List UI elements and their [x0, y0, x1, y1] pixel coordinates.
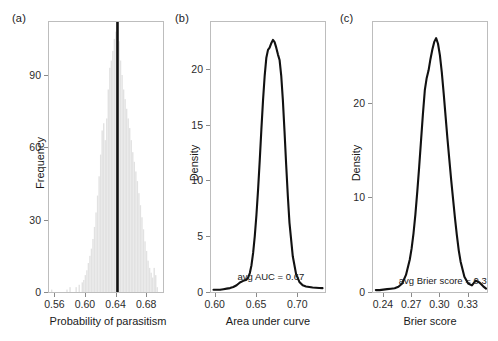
- y-tick-label: 20: [178, 63, 203, 75]
- histogram-bar: [105, 140, 106, 292]
- y-tick-mark: [206, 180, 210, 181]
- panel-b-density-curve: [211, 22, 325, 292]
- histogram-bar: [144, 241, 145, 292]
- panel-b-plot-area: avg AUC = 0.67: [210, 21, 326, 293]
- x-tick-label: 0.56: [44, 298, 64, 310]
- panel-a-plot-area: [48, 21, 164, 293]
- histogram-bar: [140, 205, 141, 292]
- density-line: [213, 40, 322, 290]
- y-tick-mark: [368, 292, 372, 293]
- histogram-bar: [135, 171, 136, 292]
- x-tick-mark: [383, 293, 384, 297]
- histogram-bar: [137, 181, 138, 292]
- panel-c-label: (c): [340, 12, 353, 24]
- y-tick-label: 30: [16, 214, 41, 226]
- x-tick-label: 0.60: [204, 298, 224, 310]
- histogram-bar: [86, 270, 87, 292]
- x-tick-mark: [146, 293, 147, 297]
- histogram-bar: [126, 109, 127, 292]
- histogram-bar: [85, 275, 86, 292]
- histogram-bar: [124, 99, 125, 292]
- panel-a: (a) 03060900.560.600.640.68 Frequency Pr…: [0, 0, 170, 341]
- histogram-bar: [141, 217, 142, 292]
- panel-c-y-axis-label: Density: [350, 145, 362, 182]
- x-tick-mark: [256, 293, 257, 297]
- panel-a-label: (a): [12, 12, 26, 24]
- histogram-bar: [146, 251, 147, 292]
- histogram-bar: [127, 118, 128, 292]
- histogram-bar: [100, 155, 101, 292]
- histogram-bar: [91, 249, 92, 292]
- histogram-bar: [106, 118, 107, 292]
- x-tick-mark: [439, 293, 440, 297]
- histogram-bar: [152, 278, 153, 292]
- x-tick-mark: [116, 293, 117, 297]
- histogram-bar: [103, 123, 104, 292]
- panel-a-y-axis-label: Frequency: [34, 137, 46, 189]
- y-tick-label: 90: [16, 69, 41, 81]
- x-tick-label: 0.64: [105, 298, 125, 310]
- x-tick-label: 0.33: [457, 298, 477, 310]
- histogram-bar: [132, 152, 133, 292]
- y-tick-label: 15: [178, 119, 203, 131]
- x-tick-mark: [411, 293, 412, 297]
- histogram-bar: [89, 256, 90, 292]
- histogram-bar: [123, 90, 124, 293]
- y-tick-mark: [44, 75, 48, 76]
- x-tick-mark: [468, 293, 469, 297]
- histogram-bar: [97, 196, 98, 292]
- histogram-bar: [109, 68, 110, 292]
- x-tick-label: 0.68: [136, 298, 156, 310]
- panel-b-y-axis-label: Density: [188, 145, 200, 182]
- panel-c-annotation: avg Brier score = 0.3: [399, 275, 487, 286]
- panel-a-histogram: [49, 22, 163, 292]
- panel-c-plot-area: avg Brier score = 0.3: [372, 21, 488, 293]
- x-tick-label: 0.24: [373, 298, 393, 310]
- x-tick-label: 0.27: [401, 298, 421, 310]
- histogram-bar: [82, 282, 83, 292]
- panel-b-x-axis-label: Area under curve: [226, 315, 310, 327]
- histogram-bar: [154, 268, 155, 292]
- histogram-bar: [108, 90, 109, 293]
- y-tick-label: 10: [340, 191, 365, 203]
- y-tick-mark: [44, 292, 48, 293]
- y-tick-label: 0: [16, 286, 41, 298]
- histogram-bar: [79, 285, 80, 292]
- histogram-bar: [147, 261, 148, 292]
- histogram-bar: [66, 290, 67, 292]
- histogram-bar: [112, 51, 113, 292]
- histogram-bar: [134, 162, 135, 292]
- y-tick-label: 0: [178, 286, 203, 298]
- figure-container: (a) 03060900.560.600.640.68 Frequency Pr…: [0, 0, 498, 341]
- y-tick-mark: [206, 125, 210, 126]
- x-tick-mark: [85, 293, 86, 297]
- histogram-bar: [114, 39, 115, 292]
- histogram-bar: [75, 287, 76, 292]
- histogram-bar: [101, 130, 102, 292]
- histogram-bar: [95, 212, 96, 292]
- density-line: [376, 38, 486, 290]
- y-tick-mark: [206, 236, 210, 237]
- y-tick-mark: [44, 220, 48, 221]
- histogram-bar: [150, 273, 151, 292]
- histogram-bar: [131, 140, 132, 292]
- histogram-bar: [149, 268, 150, 292]
- panel-b-annotation: avg AUC = 0.67: [237, 271, 304, 282]
- y-tick-label: 20: [340, 97, 365, 109]
- x-tick-mark: [215, 293, 216, 297]
- y-tick-mark: [368, 197, 372, 198]
- histogram-bar: [129, 128, 130, 292]
- histogram-bar: [120, 61, 121, 292]
- panel-a-x-axis-label: Probability of parasitism: [50, 315, 167, 327]
- y-tick-label: 0: [340, 286, 365, 298]
- histogram-bar: [98, 176, 99, 292]
- histogram-bar: [69, 287, 70, 292]
- x-tick-label: 0.70: [287, 298, 307, 310]
- y-tick-mark: [206, 292, 210, 293]
- x-tick-mark: [54, 293, 55, 297]
- panel-c-x-axis-label: Brier score: [403, 315, 456, 327]
- panel-c-density-curve: [373, 22, 487, 292]
- y-tick-mark: [206, 69, 210, 70]
- panel-b-label: (b): [175, 12, 189, 24]
- histogram-bar: [83, 280, 84, 292]
